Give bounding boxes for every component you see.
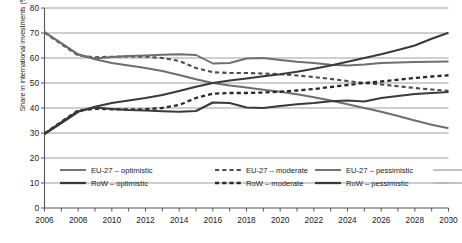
svg-text:50: 50 [30, 78, 40, 88]
svg-text:2026: 2026 [372, 215, 391, 225]
y-axis-ticks: 01020304050607080 [30, 3, 45, 213]
legend-label: RoW – moderate [246, 179, 303, 188]
x-axis-ticks: 2006200820102012201420162018202020222024… [35, 208, 458, 225]
svg-text:2020: 2020 [271, 215, 290, 225]
svg-text:2010: 2010 [103, 215, 122, 225]
svg-text:2022: 2022 [305, 215, 324, 225]
figure: Share in international investments (%) 0… [0, 0, 462, 243]
legend-label: EU-27 – pessimistic [346, 166, 413, 175]
legend-label: EU-27 – moderate [246, 166, 308, 175]
svg-text:2016: 2016 [204, 215, 223, 225]
svg-text:2006: 2006 [35, 215, 54, 225]
svg-text:20: 20 [30, 153, 40, 163]
svg-text:30: 30 [30, 128, 40, 138]
svg-text:40: 40 [30, 103, 40, 113]
svg-text:70: 70 [30, 28, 40, 38]
legend-overflow-swatches [433, 170, 462, 183]
line-chart: 01020304050607080 2006200820102012201420… [0, 0, 462, 243]
svg-text:2014: 2014 [170, 215, 189, 225]
legend-label: EU-27 – optimistic [91, 166, 153, 175]
svg-text:2008: 2008 [69, 215, 88, 225]
svg-text:0: 0 [34, 203, 39, 213]
svg-text:10: 10 [30, 178, 40, 188]
svg-text:2028: 2028 [406, 215, 425, 225]
grid-lines [45, 8, 449, 183]
chart-legend: EU-27 – optimisticEU-27 – moderateEU-27 … [60, 166, 413, 188]
svg-text:60: 60 [30, 53, 40, 63]
legend-label: RoW – pessimistic [346, 179, 409, 188]
svg-text:2018: 2018 [237, 215, 256, 225]
legend-label: RoW – optimistic [91, 179, 148, 188]
svg-text:2012: 2012 [136, 215, 155, 225]
svg-text:80: 80 [30, 3, 40, 13]
svg-text:2030: 2030 [439, 215, 458, 225]
svg-text:2024: 2024 [338, 215, 357, 225]
